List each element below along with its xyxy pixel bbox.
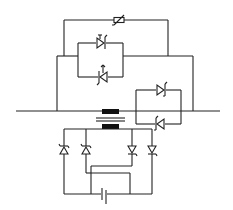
left-frame-wires: [57, 56, 78, 111]
varistor-loop-wires: [64, 20, 168, 56]
circuit-diagram: Transformer-coupled thyristor switching …: [0, 0, 233, 210]
bridge-diode-2-icon: [81, 129, 91, 173]
thyristor-upper-right-icon: [157, 82, 167, 96]
left-thyristor-pair-wires: [78, 43, 193, 77]
thyristor-upper-left-icon: [97, 35, 107, 49]
bridge-inner-wires: [91, 173, 130, 194]
thyristor-lower-left-icon: [97, 65, 107, 85]
varistor-icon: [112, 15, 124, 25]
transformer-icon: [96, 109, 125, 129]
capacitor-icon: [102, 188, 106, 204]
bridge-diode-4-icon: [148, 129, 157, 194]
right-thyristor-pair-wires: [136, 90, 181, 124]
bridge-diode-1-icon: [59, 129, 69, 194]
thyristor-lower-right-icon: [154, 116, 164, 130]
